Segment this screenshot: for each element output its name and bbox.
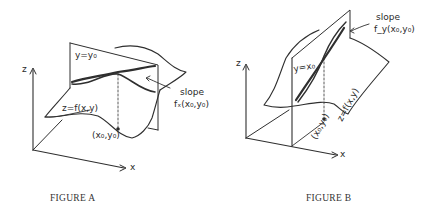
- slope-word-label: slope: [376, 12, 400, 22]
- figure-a: y=y₀ z=f(x,y) (x₀,y₀) slope fₓ(x₀,y₀) z …: [0, 0, 224, 210]
- plane-label: y=x₀: [293, 60, 317, 74]
- figure-b-drawing: y=x₀ z=f(x,y) (x₀,y₀) slope f_y(x₀,y₀) z…: [224, 0, 448, 210]
- slope-expr-label: fₓ(x₀,y₀): [174, 99, 209, 109]
- point-label: (x₀,y₀): [92, 130, 120, 140]
- y-axis: [33, 120, 62, 150]
- figure-a-drawing: y=y₀ z=f(x,y) (x₀,y₀) slope fₓ(x₀,y₀) z …: [0, 0, 224, 210]
- slope-expr-label: f_y(x₀,y₀): [374, 24, 415, 34]
- figure-b-caption: FIGURE B: [306, 193, 351, 203]
- z-axis-label: z: [22, 64, 27, 74]
- point-label: (x₀,y₀): [309, 112, 331, 141]
- x-axis: [33, 150, 124, 168]
- x-axis-label: x: [340, 149, 346, 159]
- slope-word-label: slope: [180, 87, 204, 97]
- surface: [45, 46, 186, 138]
- surface-label: z=f(x,y): [62, 103, 98, 113]
- plane-label: y=y₀: [75, 50, 97, 60]
- intersection-curve: [72, 74, 155, 92]
- slope-arrow: [351, 24, 369, 31]
- figure-a-caption: FIGURE A: [50, 193, 95, 203]
- y-axis: [246, 110, 289, 138]
- x-axis: [246, 138, 336, 155]
- surface-label: z=f(x,y): [335, 86, 361, 122]
- figure-b: y=x₀ z=f(x,y) (x₀,y₀) slope f_y(x₀,y₀) z…: [224, 0, 448, 210]
- z-axis-label: z: [236, 58, 241, 68]
- x-axis-label: x: [130, 162, 136, 172]
- surface: [264, 30, 389, 114]
